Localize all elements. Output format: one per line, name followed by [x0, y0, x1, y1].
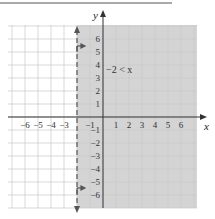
y-tick-label: −2 — [90, 138, 100, 148]
y-tick-label: −6 — [90, 190, 100, 200]
inequality-annotation: −2 < x — [106, 64, 132, 75]
x-tick-label: 6 — [179, 120, 184, 130]
y-tick-label: 5 — [96, 47, 101, 57]
x-tick-label: −3 — [59, 120, 69, 130]
y-tick-label: −3 — [90, 151, 100, 161]
y-tick-label: −4 — [90, 164, 100, 174]
y-tick-label: −5 — [90, 177, 100, 187]
y-tick-label: 2 — [96, 86, 101, 96]
x-tick-label: −6 — [20, 120, 30, 130]
inequality-graph: y x −2 < x −6−5−4−3−1123456 654321−1−2−3… — [0, 0, 215, 219]
y-tick-label: −1 — [90, 125, 100, 135]
y-tick-label: 3 — [96, 73, 101, 83]
x-tick-label: 4 — [153, 120, 158, 130]
y-tick-label: 1 — [96, 99, 101, 109]
y-tick-label: 4 — [96, 60, 101, 70]
x-axis-label: x — [203, 120, 209, 132]
x-tick-label: −4 — [46, 120, 56, 130]
boundary-down-arrow-icon — [74, 206, 80, 213]
x-tick-label: 1 — [114, 120, 119, 130]
y-tick-label: 6 — [96, 34, 101, 44]
x-tick-label: −5 — [33, 120, 43, 130]
y-axis-arrow-icon — [100, 10, 106, 17]
x-tick-label: 2 — [127, 120, 132, 130]
y-axis-label: y — [92, 9, 98, 21]
x-tick-label: 5 — [166, 120, 171, 130]
x-tick-label: 3 — [140, 120, 145, 130]
